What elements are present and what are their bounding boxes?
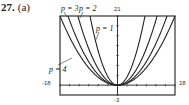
label-p3: p = 3 [60,4,78,13]
xmax-label: 18 [179,80,186,86]
leader-p1 [95,32,99,42]
label-p2: p = 2 [78,4,96,13]
label-p1: p = 1 [95,24,113,33]
axes [60,16,175,95]
parabola-family-plot: 21 -3 -18 18 p = 3 p = 2 p = 1 p = 4 [0,0,189,105]
xmin-label: -18 [42,80,51,86]
ymin-label: -3 [114,97,120,103]
ymax-label: 21 [114,6,121,12]
label-p4: p = 4 [48,65,66,74]
